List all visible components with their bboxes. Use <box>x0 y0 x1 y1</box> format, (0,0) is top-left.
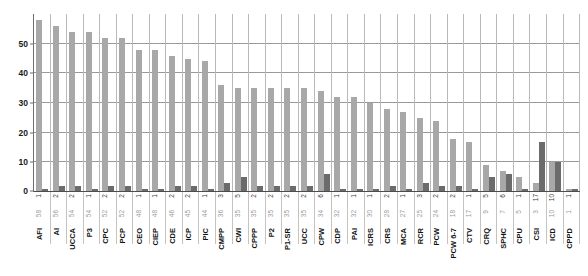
bar-column[interactable] <box>481 14 498 192</box>
x-label-column: 535CWI <box>233 192 250 276</box>
bar-column[interactable] <box>547 14 564 192</box>
x-label-column: 235UCC <box>299 192 316 276</box>
light-series-value: 24 <box>433 210 440 217</box>
bar-light[interactable] <box>367 103 373 192</box>
bar-column[interactable] <box>183 14 200 192</box>
light-series-value: 58 <box>36 210 43 217</box>
bar-light[interactable] <box>351 97 357 192</box>
bar-column[interactable] <box>564 14 581 192</box>
dark-series-value: 2 <box>384 194 391 198</box>
bar-light[interactable] <box>36 20 42 192</box>
dark-series-value: 2 <box>53 194 60 198</box>
category-label: ICD <box>549 228 557 241</box>
bar-column[interactable] <box>150 14 167 192</box>
light-series-value: 36 <box>218 210 225 217</box>
light-series-value: 35 <box>268 210 275 217</box>
bar-light[interactable] <box>53 26 59 192</box>
bar-column[interactable] <box>117 14 134 192</box>
bar-column[interactable] <box>216 14 233 192</box>
light-series-value: 32 <box>351 210 358 217</box>
category-label: ICP <box>185 228 193 241</box>
bar-dark[interactable] <box>539 142 545 192</box>
light-series-value: 18 <box>450 210 457 217</box>
bar-column[interactable] <box>100 14 117 192</box>
bar-column[interactable] <box>415 14 432 192</box>
bar-light[interactable] <box>268 88 274 192</box>
category-label: MCA <box>400 228 408 245</box>
category-label: PIC <box>202 228 210 241</box>
plot-area <box>34 14 580 192</box>
bar-column[interactable] <box>199 14 216 192</box>
bar-column[interactable] <box>464 14 481 192</box>
bar-dark[interactable] <box>324 174 330 192</box>
bar-light[interactable] <box>466 142 472 192</box>
category-label: CIEP <box>152 228 160 246</box>
x-label-column: 158AFI <box>34 192 51 276</box>
x-label-column: 1010ICD <box>547 192 564 276</box>
bar-dark[interactable] <box>489 177 495 192</box>
bar-column[interactable] <box>448 14 465 192</box>
x-label-column: 634CPW <box>315 192 332 276</box>
bar-column[interactable] <box>84 14 101 192</box>
y-axis: 01020304050 <box>0 14 34 192</box>
dark-series-value: 1 <box>400 194 407 198</box>
x-label-column: 11CPPD <box>564 192 581 276</box>
bar-light[interactable] <box>400 112 406 192</box>
bar-light[interactable] <box>202 61 208 192</box>
bar-light[interactable] <box>301 88 307 192</box>
bar-light[interactable] <box>417 118 423 192</box>
dark-series-value: 1 <box>152 194 159 198</box>
bar-dark[interactable] <box>506 174 512 192</box>
bar-column[interactable] <box>249 14 266 192</box>
bar-light[interactable] <box>119 38 125 192</box>
bar-light[interactable] <box>102 38 108 192</box>
x-label-column: 252PCP <box>117 192 134 276</box>
dark-series-value: 17 <box>533 194 540 201</box>
bar-column[interactable] <box>398 14 415 192</box>
category-label: UCC <box>301 228 309 244</box>
bar-light[interactable] <box>284 88 290 192</box>
bar-column[interactable] <box>365 14 382 192</box>
bar-light[interactable] <box>185 59 191 193</box>
category-label: PAI <box>351 228 359 240</box>
bar-column[interactable] <box>233 14 250 192</box>
dark-series-value: 2 <box>284 194 291 198</box>
bar-dark[interactable] <box>555 162 561 192</box>
bar-light[interactable] <box>433 121 439 192</box>
bar-column[interactable] <box>514 14 531 192</box>
bar-column[interactable] <box>332 14 349 192</box>
x-label-column: 173CSI <box>530 192 547 276</box>
bar-column[interactable] <box>348 14 365 192</box>
bar-column[interactable] <box>266 14 283 192</box>
bar-light[interactable] <box>334 97 340 192</box>
bar-chart: 01020304050 158AFI256AI254UCCA154P3252CP… <box>0 0 588 276</box>
bar-light[interactable] <box>169 56 175 192</box>
bar-column[interactable] <box>315 14 332 192</box>
dark-series-value: 2 <box>301 194 308 198</box>
bar-dark[interactable] <box>241 177 247 192</box>
bar-column[interactable] <box>133 14 150 192</box>
bar-light[interactable] <box>450 139 456 192</box>
light-series-value: 35 <box>235 210 242 217</box>
bar-light[interactable] <box>152 50 158 192</box>
bar-light[interactable] <box>86 32 92 192</box>
x-label-column: 218PCW 6-7 <box>448 192 465 276</box>
light-series-value: 25 <box>417 210 424 217</box>
bar-column[interactable] <box>497 14 514 192</box>
x-label-column: 224PCW <box>431 192 448 276</box>
bar-column[interactable] <box>166 14 183 192</box>
x-label-column: 127MCA <box>398 192 415 276</box>
bar-column[interactable] <box>67 14 84 192</box>
bar-column[interactable] <box>34 14 51 192</box>
bar-column[interactable] <box>431 14 448 192</box>
bar-column[interactable] <box>381 14 398 192</box>
bar-light[interactable] <box>218 85 224 192</box>
bar-light[interactable] <box>69 32 75 192</box>
bar-column[interactable] <box>530 14 547 192</box>
bar-column[interactable] <box>299 14 316 192</box>
bar-column[interactable] <box>282 14 299 192</box>
bar-column[interactable] <box>51 14 68 192</box>
bar-light[interactable] <box>384 109 390 192</box>
bar-light[interactable] <box>136 50 142 192</box>
bar-light[interactable] <box>251 88 257 192</box>
